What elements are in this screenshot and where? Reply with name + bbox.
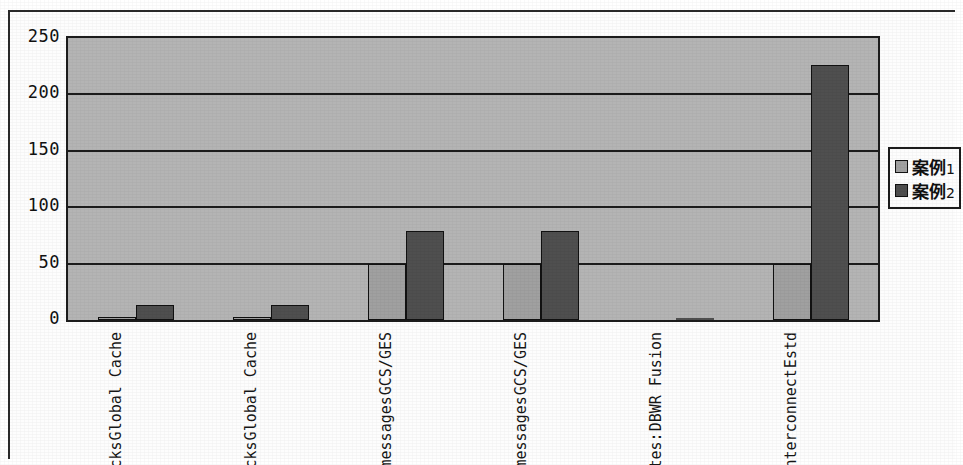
bar[interactable] <box>676 318 714 320</box>
y-axis-tick-label: 200 <box>0 84 60 101</box>
x-axis-tick-label-line: Global Cache <box>242 332 260 440</box>
legend-label-series-1: 案例1 <box>912 154 955 179</box>
x-axis-tick-label: Global Cacheblocksreceived: <box>107 332 165 464</box>
x-axis-tick-label-line: Interconnect <box>782 369 800 465</box>
x-axis-labels: Global Cacheblocksreceived:Global Cacheb… <box>68 326 878 461</box>
x-axis-tick-label: EstdInterconnecttraffic (KB) <box>782 332 840 464</box>
y-axis: 250200150100500 <box>0 36 60 322</box>
bar-group <box>608 38 743 320</box>
x-axis-tick-label-line: writes: <box>647 432 665 465</box>
bar[interactable] <box>98 317 136 320</box>
x-axis-tick-label-line: blocks <box>242 441 260 465</box>
y-axis-tick-label: 0 <box>0 310 60 327</box>
legend: 案例1 案例2 <box>888 147 961 209</box>
x-axis-tick-label: GCS/GESmessagesreceived: <box>377 332 435 464</box>
y-axis-tick-label: 150 <box>0 141 60 158</box>
bar-chart: 250200150100500 Global Cacheblocksreceiv… <box>0 0 963 465</box>
x-axis-tick-label-line: GCS/GES <box>512 332 530 395</box>
x-axis-tick-label-line: DBWR Fusion <box>647 332 665 431</box>
bar[interactable] <box>271 305 309 320</box>
bars-layer <box>68 38 878 320</box>
legend-swatch-series-1 <box>895 160 908 173</box>
bar-group <box>743 38 878 320</box>
x-axis-tick-label-line: blocks <box>107 441 125 465</box>
legend-item[interactable]: 案例1 <box>895 154 955 178</box>
legend-item[interactable]: 案例2 <box>895 178 955 202</box>
x-axis-tick-label-line: messages <box>377 396 395 465</box>
x-axis-tick-label: DBWR Fusionwrites: <box>647 332 705 464</box>
legend-swatch-series-2 <box>895 184 908 197</box>
bar-group <box>338 38 473 320</box>
bar[interactable] <box>136 305 174 320</box>
x-axis-tick-label-line: Estd <box>782 332 800 368</box>
bar[interactable] <box>233 317 271 320</box>
bar[interactable] <box>503 264 541 320</box>
bar-group <box>473 38 608 320</box>
bar[interactable] <box>773 264 811 320</box>
bar-group <box>203 38 338 320</box>
bar[interactable] <box>811 65 849 320</box>
x-axis-tick-label: Global Cacheblocksserved: <box>242 332 300 464</box>
x-axis-tick-label-line: GCS/GES <box>377 332 395 395</box>
x-axis-tick-label-line: Global Cache <box>107 332 125 440</box>
y-axis-tick-label: 100 <box>0 197 60 214</box>
y-axis-tick-label: 50 <box>0 254 60 271</box>
bar[interactable] <box>406 231 444 320</box>
bar[interactable] <box>368 264 406 320</box>
y-axis-tick-label: 250 <box>0 28 60 45</box>
x-axis-tick-label-line: messages <box>512 396 530 465</box>
legend-label-series-2: 案例2 <box>912 178 955 203</box>
x-axis-tick-label: GCS/GESmessagessent: <box>512 332 570 464</box>
bar[interactable] <box>541 231 579 320</box>
bar-group <box>68 38 203 320</box>
